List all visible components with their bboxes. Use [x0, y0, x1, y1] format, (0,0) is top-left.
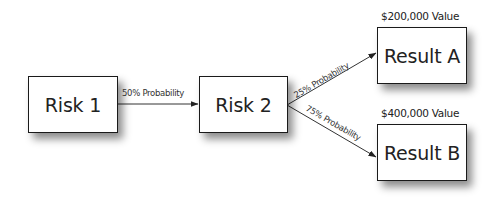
- result-a-value-label: $200,000 Value: [381, 10, 459, 22]
- node-result-b-label: Result B: [384, 142, 460, 164]
- edge-label-risk1-risk2: 50% Probability: [122, 88, 184, 98]
- node-risk-2-label: Risk 2: [215, 94, 271, 116]
- node-risk-1-label: Risk 1: [45, 94, 101, 116]
- node-risk-2: Risk 2: [199, 76, 288, 133]
- node-result-a: Result A: [377, 27, 467, 84]
- node-result-a-label: Result A: [384, 45, 460, 67]
- node-risk-1: Risk 1: [28, 76, 118, 133]
- edge-risk2-resultB: [287, 105, 376, 157]
- result-b-value-label: $400,000 Value: [381, 107, 459, 119]
- node-result-b: Result B: [377, 124, 467, 181]
